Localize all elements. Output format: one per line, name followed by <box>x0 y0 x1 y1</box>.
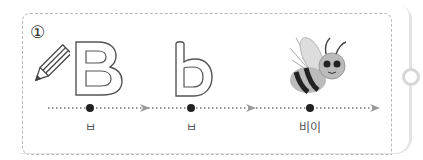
outline-letter-b <box>172 40 216 102</box>
label-1: ㅂ <box>85 118 96 135</box>
pencil-icon <box>30 44 70 92</box>
label-2: ㅂ <box>186 118 197 135</box>
outline-letter-B <box>70 40 126 100</box>
bee-illustration <box>282 28 362 107</box>
timeline <box>48 100 388 114</box>
label-3: 비이 <box>299 118 321 135</box>
exercise-number: ① <box>30 24 45 41</box>
binder-ring-hole <box>402 68 420 86</box>
